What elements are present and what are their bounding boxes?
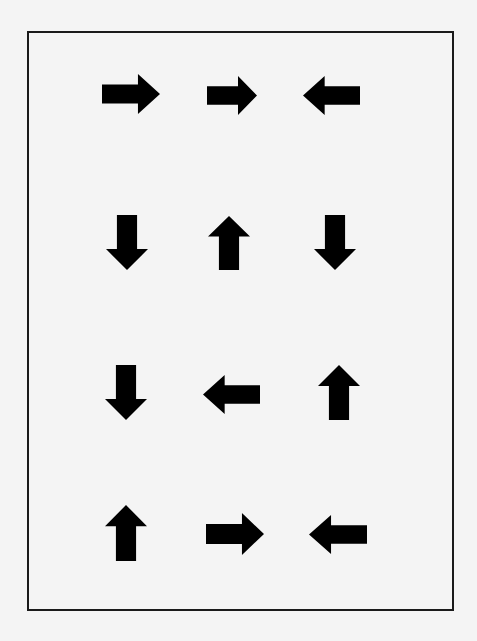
arrow-left-icon (303, 76, 360, 115)
arrow-right-icon (207, 76, 257, 115)
arrow-left-icon (309, 515, 367, 554)
arrow-left-icon (203, 375, 260, 414)
arrow-down-icon (314, 215, 356, 270)
arrow-right-icon (102, 74, 160, 114)
arrow-up-icon (208, 216, 250, 270)
arrow-right-icon (206, 513, 264, 555)
arrow-up-icon (318, 365, 360, 420)
arrow-up-icon (105, 505, 147, 561)
arrow-down-icon (105, 365, 147, 420)
arrow-down-icon (106, 215, 148, 270)
